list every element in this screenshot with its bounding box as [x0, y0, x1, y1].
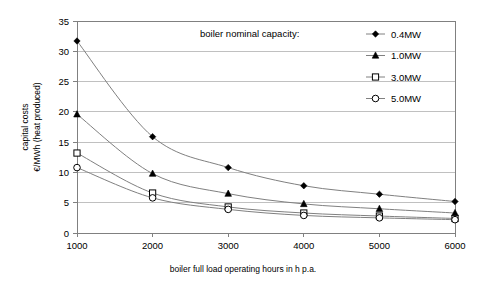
x-tick-label: 1000 [66, 240, 87, 251]
x-tick-label: 3000 [218, 240, 239, 251]
y-tick-label: 35 [58, 16, 69, 27]
data-point-3-0MW [74, 150, 80, 156]
y-tick-label: 0 [64, 228, 69, 239]
legend-title: boiler nominal capacity: [200, 28, 299, 39]
x-tick-label: 6000 [444, 240, 465, 251]
legend-marker-3-0MW [372, 74, 378, 80]
data-point-5-0MW [301, 212, 308, 219]
legend-label-1-0MW: 1.0MW [391, 50, 421, 61]
y-axis-title-line-1: capital costs [20, 104, 30, 151]
legend-label-3-0MW: 3.0MW [391, 72, 421, 83]
y-tick-label: 5 [64, 197, 69, 208]
legend-marker-5-0MW [372, 95, 379, 102]
chart-container: 100020003000400050006000 05101520253035 … [0, 0, 486, 286]
data-point-5-0MW [452, 216, 459, 223]
y-tick-label: 15 [58, 137, 69, 148]
data-point-5-0MW [149, 195, 156, 202]
y-tick-label: 10 [58, 167, 69, 178]
y-axis-title-line-2: €/MWh (heat produced) [32, 82, 42, 171]
y-tick-label: 30 [58, 46, 69, 57]
data-point-5-0MW [74, 164, 81, 171]
x-tick-label: 2000 [142, 240, 163, 251]
x-tick-label: 5000 [369, 240, 390, 251]
data-point-5-0MW [225, 206, 232, 213]
legend-label-5-0MW: 5.0MW [391, 93, 421, 104]
legend-label-0-4MW: 0.4MW [391, 29, 421, 40]
x-axis-title: boiler full load operating hours in h p.… [170, 264, 316, 274]
y-tick-label: 25 [58, 76, 69, 87]
x-tick-label: 4000 [293, 240, 314, 251]
capital-costs-line-chart: 100020003000400050006000 05101520253035 … [0, 0, 486, 286]
data-point-5-0MW [376, 215, 383, 222]
y-tick-label: 20 [58, 106, 69, 117]
